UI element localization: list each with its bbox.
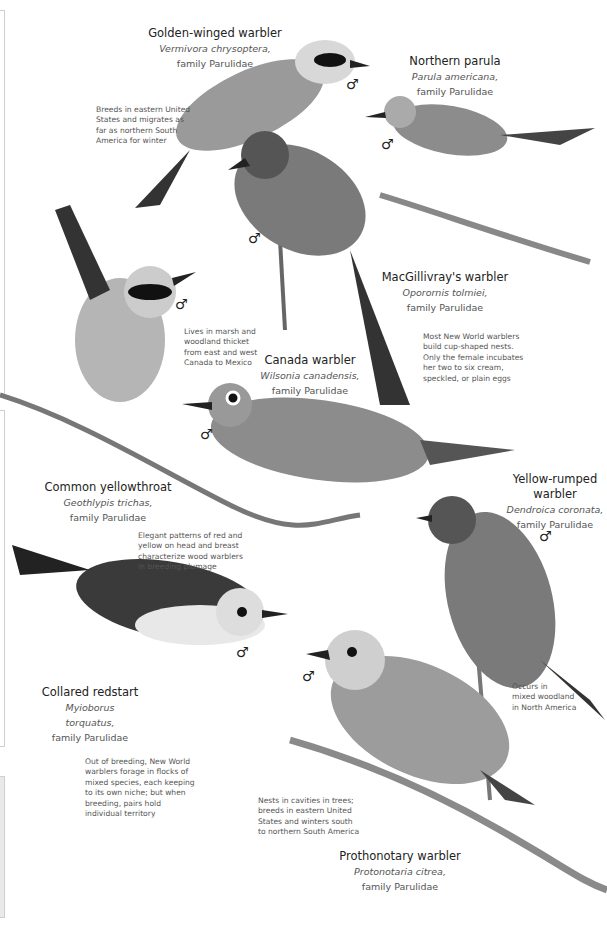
family-name: family Parulidae: [260, 383, 360, 398]
note-line: her two to six cream,: [423, 363, 523, 373]
note-line: Elegant patterns of red and: [138, 531, 243, 541]
family-name: family Parulidae: [370, 300, 520, 315]
scientific-name: Dendroica coronata,: [505, 502, 605, 517]
note-flocks: Out of breeding, New World warblers fora…: [85, 757, 195, 819]
scientific-name: Wilsonia canadensis,: [260, 368, 360, 383]
caption-golden-winged-warbler: Golden-winged warbler Vermivora chrysopt…: [140, 26, 290, 71]
male-symbol-icon: ♂: [381, 136, 394, 152]
note-line: breeding, pairs hold: [85, 799, 195, 809]
note-line: from east and west: [184, 348, 257, 358]
note-line: yellow on head and breast: [138, 541, 243, 551]
common-name: Common yellowthroat: [38, 480, 178, 495]
scientific-name: Myioborus torquatus,: [40, 700, 140, 730]
caption-collared-redstart: Collared redstart Myioborus torquatus, f…: [40, 685, 140, 745]
common-name-line2: warbler: [505, 487, 605, 502]
family-name: family Parulidae: [38, 510, 178, 525]
note-line: States and migrates as: [96, 115, 190, 125]
note-yellowthroat-habitat: Lives in marsh and woodland thicket from…: [184, 327, 257, 369]
note-line: breeds in eastern United: [258, 806, 359, 816]
scientific-name: Parula americana,: [400, 69, 510, 84]
note-line: warblers forage in flocks of: [85, 767, 195, 777]
caption-canada-warbler: Canada warbler Wilsonia canadensis, fami…: [260, 353, 360, 398]
note-line: Breeds in eastern United: [96, 105, 190, 115]
common-name: Collared redstart: [40, 685, 140, 700]
note-line: in breeding plumage: [138, 562, 243, 572]
common-name: Northern parula: [400, 54, 510, 69]
note-line: individual territory: [85, 809, 195, 819]
northern-parula-illustration: [365, 96, 595, 164]
note-golden-winged-range: Breeds in eastern United States and migr…: [96, 105, 190, 147]
note-line: Nests in cavities in trees;: [258, 796, 359, 806]
male-symbol-icon: ♂: [346, 76, 359, 92]
note-line: Occurs in: [512, 682, 576, 692]
family-name: family Parulidae: [330, 879, 470, 894]
note-line: speckled, or plain eggs: [423, 374, 523, 384]
note-line: America for winter: [96, 136, 190, 146]
note-line: Most New World warblers: [423, 332, 523, 342]
caption-yellow-rumped-warbler: Yellow-rumped warbler Dendroica coronata…: [505, 472, 605, 532]
caption-macgillivrays-warbler: MacGillivray's warbler Oporornis tolmiei…: [370, 270, 520, 315]
note-plumage: Elegant patterns of red and yellow on he…: [138, 531, 243, 573]
male-symbol-icon: ♂: [248, 230, 261, 246]
note-line: to its own niche; but when: [85, 788, 195, 798]
note-yellow-rumped-habitat: Occurs in mixed woodland in North Americ…: [512, 682, 576, 713]
note-line: to northern South America: [258, 827, 359, 837]
scientific-name: Vermivora chrysoptera,: [140, 41, 290, 56]
common-name: Prothonotary warbler: [330, 849, 470, 864]
scientific-name: Oporornis tolmiei,: [370, 285, 520, 300]
note-line: characterize wood warblers: [138, 552, 243, 562]
male-symbol-icon: ♂: [175, 296, 188, 312]
common-name: Golden-winged warbler: [140, 26, 290, 41]
branch-top-right: [380, 195, 590, 262]
note-line: in North America: [512, 703, 576, 713]
note-nests: Most New World warblers build cup-shaped…: [423, 332, 523, 384]
male-symbol-icon: ♂: [302, 668, 315, 684]
family-name: family Parulidae: [400, 84, 510, 99]
family-name: family Parulidae: [505, 517, 605, 532]
note-line: far as northern South: [96, 126, 190, 136]
canada-warbler-illustration: [182, 383, 515, 495]
male-symbol-icon: ♂: [236, 644, 249, 660]
caption-common-yellowthroat: Common yellowthroat Geothlypis trichas, …: [38, 480, 178, 525]
note-line: build cup-shaped nests.: [423, 342, 523, 352]
note-line: Out of breeding, New World: [85, 757, 195, 767]
scientific-name: Geothlypis trichas,: [38, 495, 178, 510]
note-line: woodland thicket: [184, 337, 257, 347]
common-name: Canada warbler: [260, 353, 360, 368]
note-line: Only the female incubates: [423, 353, 523, 363]
common-name: MacGillivray's warbler: [370, 270, 520, 285]
caption-northern-parula: Northern parula Parula americana, family…: [400, 54, 510, 99]
note-line: Lives in marsh and: [184, 327, 257, 337]
family-name: family Parulidae: [40, 730, 140, 745]
common-name-line1: Yellow-rumped: [505, 472, 605, 487]
male-symbol-icon: ♂: [200, 426, 213, 442]
note-line: mixed woodland: [512, 692, 576, 702]
note-line: States and winters south: [258, 817, 359, 827]
note-prothonotary-range: Nests in cavities in trees; breeds in ea…: [258, 796, 359, 838]
caption-prothonotary-warbler: Prothonotary warbler Protonotaria citrea…: [330, 849, 470, 894]
note-line: mixed species, each keeping: [85, 778, 195, 788]
scientific-name: Protonotaria citrea,: [330, 864, 470, 879]
note-line: Canada to Mexico: [184, 358, 257, 368]
family-name: family Parulidae: [140, 56, 290, 71]
